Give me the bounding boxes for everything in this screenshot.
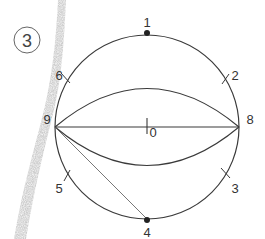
point-1-dot [144, 30, 150, 36]
label-8: 8 [246, 112, 253, 127]
label-3: 3 [231, 181, 238, 196]
label-4: 4 [143, 225, 150, 239]
label-6: 6 [55, 68, 62, 83]
label-2: 2 [231, 68, 238, 83]
circle-construction-diagram: 3 1 2 3 4 5 6 8 9 0 [0, 0, 265, 239]
step-number-badge: 3 [14, 27, 40, 53]
label-5: 5 [55, 181, 62, 196]
label-0: 0 [149, 125, 156, 140]
step-number: 3 [22, 31, 32, 51]
label-1: 1 [143, 15, 150, 30]
label-9: 9 [43, 112, 50, 127]
point-4-dot [144, 217, 150, 223]
